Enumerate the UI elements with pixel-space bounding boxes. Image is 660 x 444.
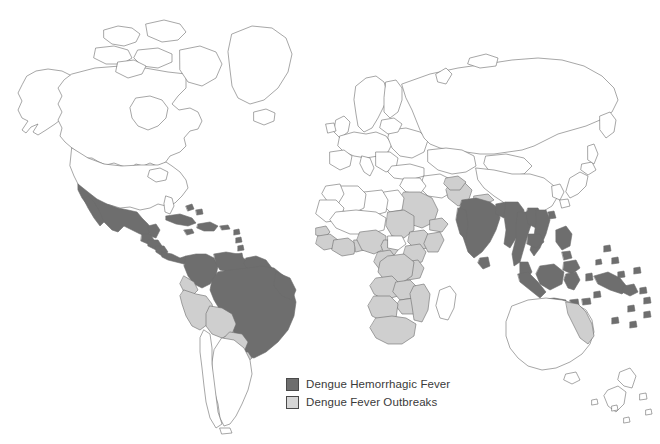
region-madagascar [436,286,456,320]
region-japan-kyushu [560,199,570,208]
region-philippines-mindanao [563,260,580,274]
region-pacific-island-1 [604,245,611,252]
region-tasmania [564,372,580,384]
region-group-north-america [18,20,292,214]
region-pacific-island-10 [594,291,601,298]
region-pacific-dot-3 [646,409,652,415]
region-pacific-island-9 [630,321,637,328]
region-group-latin-america-dhf [78,184,296,358]
region-india-west-coast [456,208,468,240]
region-italy [360,156,374,176]
region-canadian-arctic-islands [104,26,140,46]
region-turkey [388,164,424,180]
legend-swatch-dark-icon [286,378,299,391]
region-solomon-islands-1 [640,287,647,294]
region-mali-niger-chad [330,210,386,234]
region-iraq-syria [400,178,426,194]
region-pacific-island-5 [634,267,641,274]
legend-item-dengue-fever-outbreaks: Dengue Fever Outbreaks [286,395,450,410]
region-lesser-sunda-2 [582,298,591,305]
region-yemen-oman [430,218,448,232]
region-pacific-island-6 [628,305,635,312]
region-group-middle-east-north-africa [316,164,452,234]
region-lesser-antilles-1 [234,229,240,235]
region-pacific-island-4 [596,259,602,265]
region-cuba [166,214,196,226]
region-pacific-dot-2 [612,405,618,411]
region-mozambique [410,284,430,322]
region-maluku [586,273,593,281]
region-png-east [622,284,638,296]
region-russia [402,58,618,154]
region-iceland [254,109,275,125]
region-hispaniola [197,222,218,231]
legend-label-dengue-hemorrhagic-fever: Dengue Hemorrhagic Fever [306,378,450,391]
region-pacific-island-8 [612,317,619,324]
region-pacific-island-2 [612,257,619,264]
region-pacific-dot-1 [592,399,598,405]
legend-label-dengue-fever-outbreaks: Dengue Fever Outbreaks [306,396,437,409]
region-pacific-island-3 [618,271,625,278]
region-central-african-republic [388,236,406,250]
region-korea [552,184,564,200]
region-japan-main [566,172,588,198]
region-pacific-island-7 [644,311,651,318]
region-new-zealand-north [618,368,636,388]
region-south-africa [370,316,416,344]
region-ireland [326,123,336,133]
region-bahamas-2 [196,209,203,215]
region-finland [384,80,402,118]
region-sulawesi [564,272,580,290]
region-bahamas [186,204,194,211]
region-puerto-rico [220,225,230,230]
legend-item-dengue-hemorrhagic-fever: Dengue Hemorrhagic Fever [286,377,450,392]
region-lesser-antilles-3 [238,245,244,251]
legend-swatch-light-icon [286,396,299,409]
region-philippines-visayas [562,251,572,260]
region-arctic-island-2 [146,20,186,42]
region-sri-lanka [478,257,490,269]
region-group-oceania [506,298,652,423]
region-pacific-dot-4 [624,417,630,423]
map-legend: Dengue Hemorrhagic Fever Dengue Fever Ou… [286,377,450,410]
dengue-distribution-map-figure: Dengue Hemorrhagic Fever Dengue Fever Ou… [0,0,660,444]
region-jamaica [184,229,194,235]
region-kamchatka [600,112,616,138]
region-lesser-antilles-2 [236,237,242,243]
region-philippines-luzon [556,226,572,250]
region-fiji [640,393,647,400]
region-sakhalin [588,144,598,164]
region-greenland [228,26,292,104]
region-solomon-islands-2 [644,297,651,304]
region-tierra-del-fuego [220,428,232,434]
region-ivory-coast-ghana [332,238,356,256]
